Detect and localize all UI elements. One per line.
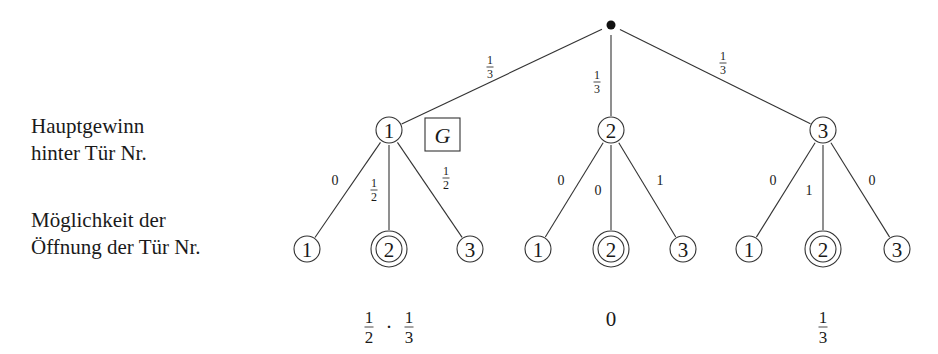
result-probability-1-factor-b-denominator: 3 [405,328,414,347]
prize-door-node-2-label: 2 [606,119,617,143]
open-door-node-2-2-label: 2 [606,238,617,262]
result-probability-1-factor-b-numerator: 1 [405,308,414,327]
edge-door-1-open-3 [397,142,462,237]
result-probability-3-denominator: 3 [819,328,828,347]
monty-hall-probability-tree: Hauptgewinn hinter Tür Nr. Möglichkeit d… [0,0,938,354]
edge-root-to-door-1 [402,29,602,124]
edge-prob-root-door-2-numerator: 1 [594,68,600,82]
open-door-node-1-3-label: 3 [465,238,476,262]
edge-prob-root-door-1-denominator: 3 [487,67,493,81]
edge-prob-door-3-open-3: 0 [869,173,876,188]
prize-door-node-1-label: 1 [384,119,395,143]
edge-prob-door-2-open-1: 0 [558,173,565,188]
edge-prob-root-door-3-denominator: 3 [720,63,726,77]
open-door-node-3-2-label: 2 [818,238,829,262]
open-door-node-1-1-label: 1 [302,238,313,262]
result-probability-1-factor-a-denominator: 2 [365,328,374,347]
edge-prob-door-3-open-1: 0 [770,173,777,188]
edge-prob-door-1-open-3-denominator: 2 [443,178,449,192]
edge-door-3-open-3 [831,143,890,237]
edge-prob-door-3-open-2: 1 [806,183,813,198]
prize-door-node-3-label: 3 [818,119,829,143]
edge-prob-door-1-open-3-numerator: 1 [443,164,449,178]
edge-prob-root-door-3-numerator: 1 [720,49,726,63]
edge-door-2-open-3 [619,143,676,237]
root-node-dot [607,21,616,30]
edge-prob-door-2-open-3: 1 [657,173,664,188]
guess-marker-label: G [435,123,451,148]
result-probability-1-factor-a-numerator: 1 [365,308,374,327]
edge-prob-root-door-1-numerator: 1 [487,53,493,67]
edge-prob-door-1-open-2-numerator: 1 [371,176,377,190]
edge-prob-door-1-open-2-denominator: 2 [371,190,377,204]
edge-prob-door-2-open-2: 0 [595,183,602,198]
open-door-node-1-2-label: 2 [384,238,395,262]
result-probability-2: 0 [606,307,617,331]
result-probability-3-numerator: 1 [819,308,828,327]
result-probability-1-operator: · [386,315,393,339]
open-door-node-2-1-label: 1 [533,238,544,262]
edge-prob-door-1-open-1: 0 [332,173,339,188]
edge-prob-root-door-2-denominator: 3 [594,82,600,96]
open-door-node-3-3-label: 3 [892,238,903,262]
open-door-node-3-1-label: 1 [744,238,755,262]
tree-canvas: 13131301212001010123G12312312312·13013 [0,0,938,354]
edge-root-to-door-3 [620,29,810,123]
open-door-node-2-3-label: 3 [678,238,689,262]
